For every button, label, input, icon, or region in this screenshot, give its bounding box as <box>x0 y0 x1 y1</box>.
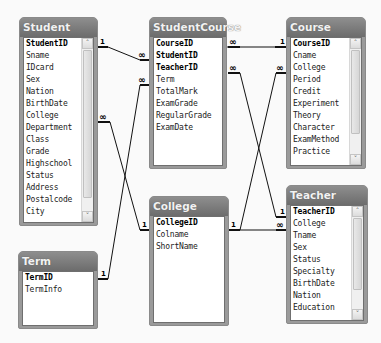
scroll-down-icon[interactable]: ˅ <box>352 309 363 320</box>
table-title-college[interactable]: College <box>150 197 228 216</box>
table-title-course[interactable]: Course <box>287 18 365 37</box>
field-totalmark[interactable]: TotalMark <box>154 86 222 98</box>
field-regulargrade[interactable]: RegularGrade <box>154 110 222 122</box>
table-studentcourse[interactable]: StudentCourse CourseID StudentID Teacher… <box>149 17 227 169</box>
field-examgrade[interactable]: ExamGrade <box>154 98 222 110</box>
field-courseid[interactable]: CourseID <box>154 38 222 50</box>
card-one-student-studentid: 1 <box>100 38 105 46</box>
field-collegeid[interactable]: CollegeID <box>154 217 224 229</box>
field-termid[interactable]: TermID <box>23 272 93 284</box>
field-studentid[interactable]: StudentID <box>154 50 222 62</box>
rel-course-college <box>228 73 287 230</box>
card-many-studentcourse-courseid: ∞ <box>229 38 237 46</box>
field-list-studentcourse: CourseID StudentID TeacherID Term TotalM… <box>153 37 223 166</box>
scroll-thumb[interactable] <box>83 50 92 198</box>
table-title-term[interactable]: Term <box>19 252 97 271</box>
table-term[interactable]: Term TermID TermInfo <box>18 251 98 329</box>
card-one-course-courseid: 1 <box>280 38 285 46</box>
card-many-student-college: ∞ <box>99 113 107 121</box>
field-list-teacher: TeacherID College Tname Sex Status Speci… <box>290 205 364 321</box>
card-many-studentcourse-studentid: ∞ <box>138 51 146 59</box>
scroll-up-icon[interactable]: ˄ <box>352 206 363 217</box>
scroll-up-icon[interactable]: ˄ <box>82 38 93 49</box>
scrollbar-student[interactable]: ˄ ˅ <box>81 38 93 222</box>
field-list-term: TermID TermInfo <box>22 271 94 326</box>
scrollbar-course[interactable]: ˄ ˅ <box>349 38 361 165</box>
scrollbar-teacher[interactable]: ˄ ˅ <box>351 206 363 320</box>
card-one-term-termid: 1 <box>101 270 106 278</box>
card-many-course-college: ∞ <box>276 64 284 72</box>
scroll-down-icon[interactable]: ˅ <box>350 154 361 165</box>
table-title-student[interactable]: Student <box>20 18 97 37</box>
table-title-studentcourse[interactable]: StudentCourse <box>150 18 226 37</box>
field-list-course: CourseID Cname College Period Credit Exp… <box>290 37 362 166</box>
card-many-studentcourse-teacherid: ∞ <box>229 64 237 72</box>
table-student[interactable]: Student StudentID Sname IDcard Sex Natio… <box>19 17 98 226</box>
card-one-college-collegeid-left: 1 <box>142 221 147 229</box>
field-list-college: CollegeID Colname ShortName <box>153 216 225 323</box>
card-many-studentcourse-term: ∞ <box>138 76 146 84</box>
field-shortname[interactable]: ShortName <box>154 241 224 253</box>
field-teacherid[interactable]: TeacherID <box>154 62 222 74</box>
field-list-student: StudentID Sname IDcard Sex Nation BirthD… <box>23 37 94 223</box>
scroll-up-icon[interactable]: ˄ <box>350 38 361 49</box>
rel-student-college <box>97 122 150 230</box>
field-terminfo[interactable]: TermInfo <box>23 284 93 296</box>
scroll-thumb[interactable] <box>353 218 362 290</box>
relationship-diagram: 1 ∞ 1 ∞ ∞ 1 ∞ 1 ∞ 1 ∞ 1 ∞ Student Studen… <box>0 0 381 343</box>
field-term[interactable]: Term <box>154 74 222 86</box>
scroll-thumb[interactable] <box>351 50 360 134</box>
table-course[interactable]: Course CourseID Cname College Period Cre… <box>286 17 366 169</box>
card-one-college-collegeid-right: 1 <box>231 221 236 229</box>
table-college[interactable]: College CollegeID Colname ShortName <box>149 196 229 326</box>
scroll-down-icon[interactable]: ˅ <box>82 211 93 222</box>
table-teacher[interactable]: Teacher TeacherID College Tname Sex Stat… <box>286 185 368 324</box>
field-examdate[interactable]: ExamDate <box>154 122 222 134</box>
card-one-teacher-teacherid: 1 <box>280 208 285 216</box>
field-colname[interactable]: Colname <box>154 229 224 241</box>
rel-studentcourse-teacher <box>228 73 287 217</box>
table-title-teacher[interactable]: Teacher <box>287 186 367 205</box>
card-many-teacher-college: ∞ <box>276 221 284 229</box>
